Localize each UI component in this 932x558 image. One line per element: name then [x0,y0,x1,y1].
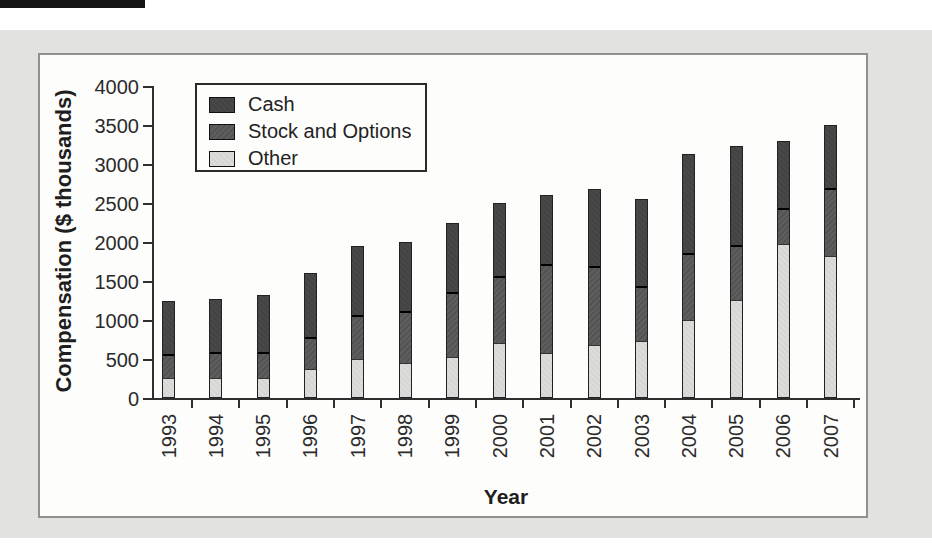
bar-group-2003 [635,199,648,398]
x-tick [522,400,524,408]
bar-segment-other [683,321,694,397]
bar-segment-cash [352,247,363,317]
bar-group-2006 [777,141,790,398]
y-tick [143,398,152,400]
bar-group-1993 [162,301,175,399]
x-tick [475,400,477,408]
bar-segment-stock-and-options [258,354,269,379]
bar-segment-cash [683,155,694,254]
x-tick [711,400,713,408]
x-tick-label-2003: 2003 [631,401,653,471]
x-tick-label-1993: 1993 [158,401,180,471]
legend-item-stock-and-options: Stock and Options [209,118,425,145]
bar-segment-cash [731,147,742,246]
bar-segment-other [636,342,647,397]
x-tick-label-1999: 1999 [441,401,463,471]
bar-group-2007 [824,125,837,398]
bar-group-1995 [257,295,270,398]
bar-segment-other [210,379,221,397]
y-tick-label: 4000 [69,76,139,98]
y-tick [143,164,152,166]
bar-segment-cash [258,296,269,355]
x-tick [380,400,382,408]
x-tick-label-1994: 1994 [205,401,227,471]
x-tick [853,400,855,408]
bar-segment-other [541,354,552,397]
bar-segment-stock-and-options [589,268,600,346]
bar-group-2002 [588,189,601,398]
x-tick [286,400,288,408]
y-tick [143,86,152,88]
bar-segment-cash [541,196,552,266]
x-tick-label-2001: 2001 [536,401,558,471]
bar-segment-other [589,346,600,397]
x-tick [428,400,430,408]
y-tick-label: 0 [69,388,139,410]
x-tick [191,400,193,408]
x-tick-label-2000: 2000 [489,401,511,471]
y-tick [143,242,152,244]
legend-label-stock-and-options: Stock and Options [248,120,411,143]
x-tick-label-2004: 2004 [678,401,700,471]
bar-segment-cash [447,224,458,294]
bar-segment-cash [400,243,411,313]
bar-segment-other [447,358,458,397]
bar-segment-stock-and-options [541,266,552,354]
bar-segment-stock-and-options [163,356,174,379]
bar-segment-stock-and-options [305,339,316,370]
y-tick-label: 3500 [69,115,139,137]
y-tick-label: 3000 [69,154,139,176]
y-tick-label: 500 [69,349,139,371]
y-tick [143,320,152,322]
y-tick-label: 2000 [69,232,139,254]
bar-group-1999 [446,223,459,399]
legend-item-cash: Cash [209,91,425,118]
x-tick [333,400,335,408]
x-tick-label-2006: 2006 [772,401,794,471]
legend-swatch-other [209,151,235,167]
bar-group-1996 [304,273,317,398]
bar-segment-stock-and-options [447,294,458,358]
bar-segment-other [352,360,363,397]
x-tick-label-1995: 1995 [252,401,274,471]
bar-segment-cash [163,302,174,357]
bar-group-1994 [209,299,222,398]
x-tick [759,400,761,408]
bar-segment-cash [778,142,789,210]
x-tick [238,400,240,408]
bar-segment-stock-and-options [731,247,742,302]
y-axis-line [152,86,154,400]
bar-segment-stock-and-options [494,278,505,344]
x-axis-line [152,398,860,400]
x-tick-label-1998: 1998 [394,401,416,471]
x-tick-label-1996: 1996 [299,401,321,471]
bar-segment-stock-and-options [352,317,363,360]
x-tick [664,400,666,408]
bar-segment-stock-and-options [683,255,694,321]
bar-segment-other [825,257,836,397]
bar-segment-other [305,370,316,397]
y-tick-label: 1500 [69,271,139,293]
bar-segment-stock-and-options [636,288,647,343]
bar-segment-stock-and-options [400,313,411,364]
bar-segment-cash [210,300,221,355]
bar-group-2004 [682,154,695,398]
x-tick-label-2005: 2005 [725,401,747,471]
x-tick-label-2007: 2007 [820,401,842,471]
bar-group-2001 [540,195,553,398]
bar-segment-cash [305,274,316,338]
x-tick-label-1997: 1997 [347,401,369,471]
figure-panel: Compensation ($ thousands) 0500100015002… [0,30,932,538]
x-axis-title: Year [152,485,860,509]
bar-segment-other [778,245,789,397]
bar-segment-cash [494,204,505,278]
y-tick [143,125,152,127]
y-tick [143,203,152,205]
bar-segment-cash [589,190,600,268]
legend-swatch-cash [209,97,235,113]
legend-label-other: Other [248,147,298,170]
bar-group-1998 [399,242,412,398]
legend-item-other: Other [209,145,425,172]
bar-segment-other [258,379,269,397]
x-tick-label-2002: 2002 [583,401,605,471]
